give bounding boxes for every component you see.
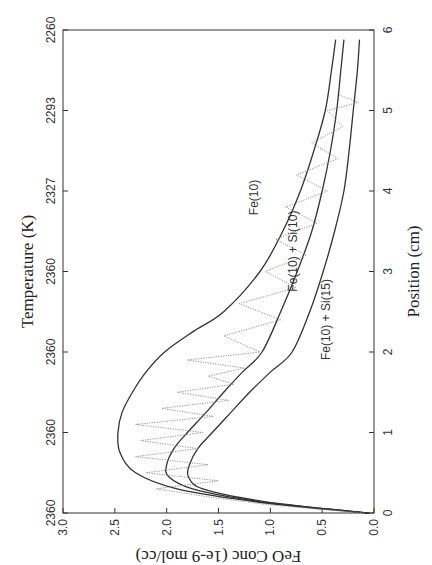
top-tick-label: 2327 xyxy=(44,177,58,204)
x-tick-label: 2 xyxy=(381,348,395,355)
y-tick-label: 3.0 xyxy=(56,519,70,536)
temperature-axis-title: Temperature (K) xyxy=(18,215,37,329)
feo-concentration-chart: 0123456 0.00.51.01.52.02.53.0 2360236023… xyxy=(0,0,432,565)
x-tick-label: 4 xyxy=(381,187,395,194)
series-fe-10-si-15 xyxy=(187,40,368,513)
series-fe-10 xyxy=(118,40,369,513)
top-tick-label: 2260 xyxy=(44,16,58,43)
series-fe-10-si-10 xyxy=(166,40,369,513)
curve-label-fe10-si10: Fe(10) + Si(10) xyxy=(286,211,300,292)
top-tick-label: 2293 xyxy=(44,97,58,124)
y-tick-label: 0.0 xyxy=(367,519,381,536)
y-tick-label: 2.0 xyxy=(160,519,174,536)
y-tick-label: 1.5 xyxy=(212,519,226,536)
data-series xyxy=(118,40,369,513)
curve-label-fe10: Fe(10) xyxy=(247,180,261,215)
x-tick-label: 6 xyxy=(381,26,395,33)
position-axis-ticks: 0123456 xyxy=(369,26,395,516)
chart-stage: 0123456 0.00.51.01.52.02.53.0 2360236023… xyxy=(0,0,432,565)
y-tick-label: 2.5 xyxy=(108,519,122,536)
temperature-axis-ticks: 2360236023602360232722932260 xyxy=(44,16,68,526)
x-tick-label: 0 xyxy=(381,509,395,516)
top-tick-label: 2360 xyxy=(44,419,58,446)
y-tick-label: 1.0 xyxy=(263,519,277,536)
y-tick-label: 0.5 xyxy=(315,519,329,536)
x-tick-label: 1 xyxy=(381,429,395,436)
concentration-axis-ticks: 0.00.51.01.52.02.53.0 xyxy=(56,508,381,536)
top-tick-label: 2360 xyxy=(44,258,58,285)
x-tick-label: 5 xyxy=(381,107,395,114)
top-tick-label: 2360 xyxy=(44,499,58,526)
concentration-axis-title: FeO Conc (1e-9 mol/cc) xyxy=(136,547,302,565)
curve-label-fe10-si15: Fe(10) + Si(15) xyxy=(319,279,333,360)
x-tick-label: 3 xyxy=(381,268,395,275)
position-axis-title: Position (cm) xyxy=(404,225,423,317)
top-tick-label: 2360 xyxy=(44,338,58,365)
